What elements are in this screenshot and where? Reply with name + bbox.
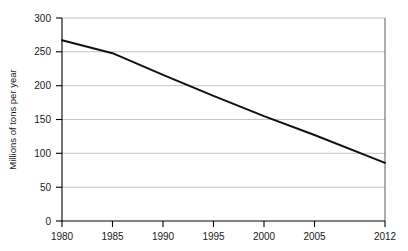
y-axis-ticks — [56, 18, 62, 221]
y-axis-title: Millions of tons per year — [7, 69, 18, 169]
y-tick-label: 150 — [34, 114, 51, 125]
x-tick-label: 1995 — [202, 231, 225, 242]
x-tick-label: 1990 — [152, 231, 175, 242]
y-tick-label: 300 — [34, 13, 51, 24]
y-tick-label: 250 — [34, 46, 51, 57]
y-tick-label: 50 — [40, 182, 52, 193]
y-tick-label: 0 — [45, 216, 51, 227]
x-tick-label: 2005 — [303, 231, 326, 242]
chart-container: 300 250 200 150 100 50 0 1980 1985 1990 … — [0, 0, 408, 251]
x-tick-label: 2000 — [253, 231, 276, 242]
x-tick-label: 1985 — [101, 231, 124, 242]
x-tick-label: 2012 — [374, 231, 397, 242]
x-axis-tick-labels: 1980 1985 1990 1995 2000 2005 2012 — [51, 231, 397, 242]
y-axis-tick-labels: 300 250 200 150 100 50 0 — [34, 13, 51, 227]
y-tick-label: 100 — [34, 148, 51, 159]
line-chart: 300 250 200 150 100 50 0 1980 1985 1990 … — [0, 0, 408, 251]
x-tick-label: 1980 — [51, 231, 74, 242]
x-axis-ticks — [62, 221, 385, 227]
y-tick-label: 200 — [34, 80, 51, 91]
